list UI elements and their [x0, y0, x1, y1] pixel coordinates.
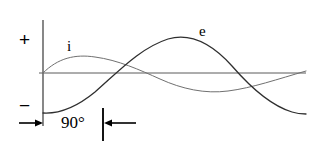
voltage-waveform-label: e [199, 24, 206, 39]
voltage-waveform-curve [43, 37, 306, 114]
current-waveform-curve [43, 56, 306, 92]
current-waveform-label: i [67, 39, 71, 54]
negative-axis-label: − [19, 96, 30, 115]
phase-arrow-left [19, 120, 43, 127]
waveform-plot [0, 0, 316, 148]
phase-angle-label: 90° [61, 114, 85, 131]
positive-axis-label: + [19, 30, 30, 49]
phase-arrow-right [104, 120, 136, 127]
waveform-figure: + − i e 90° [0, 0, 316, 148]
